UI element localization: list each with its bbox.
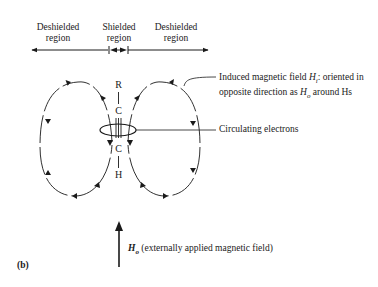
applied-field-arrow	[115, 221, 123, 267]
induced-field-line1: Induced magnetic field Hi: oriented in	[219, 72, 364, 87]
induced-field-leader-line	[184, 77, 216, 86]
region-label-line: region	[96, 33, 142, 44]
region-axis	[32, 46, 208, 54]
region-label-line: Deshielded	[146, 22, 206, 33]
circulating-electrons-label: Circulating electrons	[219, 124, 298, 135]
atom-carbon-bottom: C	[113, 144, 125, 154]
region-label-deshielded-right: Deshielded region	[146, 22, 206, 44]
atom-h: H	[113, 170, 125, 180]
applied-field-label: Ho (externally applied magnetic field)	[128, 243, 273, 258]
induced-field-note: Induced magnetic field Hi: oriented in o…	[219, 72, 364, 102]
right-loop-arrows	[127, 79, 196, 199]
region-label-line: region	[146, 33, 206, 44]
atom-carbon-top: C	[113, 106, 125, 116]
text: around Hs	[310, 87, 352, 97]
left-loop-arrows	[45, 79, 113, 199]
region-label-line: Deshielded	[28, 22, 88, 33]
h-symbol: H	[309, 72, 316, 82]
left-field-loop	[40, 82, 112, 196]
molecule-bonds	[116, 92, 121, 168]
atom-r: R	[113, 80, 125, 90]
text: opposite direction as	[219, 87, 300, 97]
text: : oriented in	[318, 72, 364, 82]
text: Induced magnetic field	[219, 72, 309, 82]
region-label-shielded: Shielded region	[96, 22, 142, 44]
text: (externally applied magnetic field)	[139, 243, 273, 253]
region-label-line: Shielded	[96, 22, 142, 33]
h-symbol: H	[300, 87, 307, 97]
figure-label: (b)	[17, 260, 29, 270]
region-label-deshielded-left: Deshielded region	[28, 22, 88, 44]
induced-field-line2: opposite direction as Ho around Hs	[219, 87, 364, 102]
region-label-line: region	[28, 33, 88, 44]
right-field-loop	[128, 82, 200, 196]
